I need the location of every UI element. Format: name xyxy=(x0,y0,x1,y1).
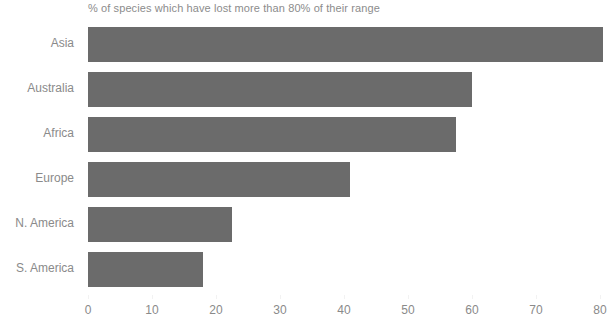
bar xyxy=(88,72,472,107)
category-label-text: Europe xyxy=(35,171,74,185)
bar-row: Africa xyxy=(0,115,613,160)
bar xyxy=(88,117,456,152)
bar xyxy=(88,27,603,62)
bar xyxy=(88,252,203,287)
x-tick-label: 10 xyxy=(145,303,158,317)
plot-area: AsiaAustraliaAfricaEuropeN. AmericaS. Am… xyxy=(0,25,613,295)
bar-chart: % of species which have lost more than 8… xyxy=(0,0,613,330)
category-label-text: Asia xyxy=(51,36,74,50)
x-axis: 01020304050607080 xyxy=(0,295,613,330)
bar-row: S. America xyxy=(0,250,613,295)
x-tick-mark xyxy=(280,295,281,299)
x-tick-label: 50 xyxy=(401,303,414,317)
x-tick-label: 80 xyxy=(593,303,606,317)
bar-row: Asia xyxy=(0,25,613,70)
bar-row: N. America xyxy=(0,205,613,250)
category-label-text: N. America xyxy=(15,216,74,230)
x-tick-mark xyxy=(88,295,89,299)
bar xyxy=(88,207,232,242)
x-tick-mark xyxy=(152,295,153,299)
x-tick-mark xyxy=(600,295,601,299)
category-label-text: Africa xyxy=(43,126,74,140)
category-label-text: Australia xyxy=(27,81,74,95)
bar-row: Europe xyxy=(0,160,613,205)
x-tick-mark xyxy=(536,295,537,299)
x-tick-mark xyxy=(408,295,409,299)
x-tick-mark xyxy=(344,295,345,299)
category-label-text: S. America xyxy=(16,261,74,275)
x-tick-label: 0 xyxy=(85,303,92,317)
x-tick-label: 70 xyxy=(529,303,542,317)
x-tick-label: 30 xyxy=(273,303,286,317)
chart-title: % of species which have lost more than 8… xyxy=(88,2,380,14)
x-tick-label: 60 xyxy=(465,303,478,317)
x-tick-mark xyxy=(216,295,217,299)
bar xyxy=(88,162,350,197)
bar-row: Australia xyxy=(0,70,613,115)
x-tick-mark xyxy=(472,295,473,299)
x-tick-label: 20 xyxy=(209,303,222,317)
x-tick-label: 40 xyxy=(337,303,350,317)
